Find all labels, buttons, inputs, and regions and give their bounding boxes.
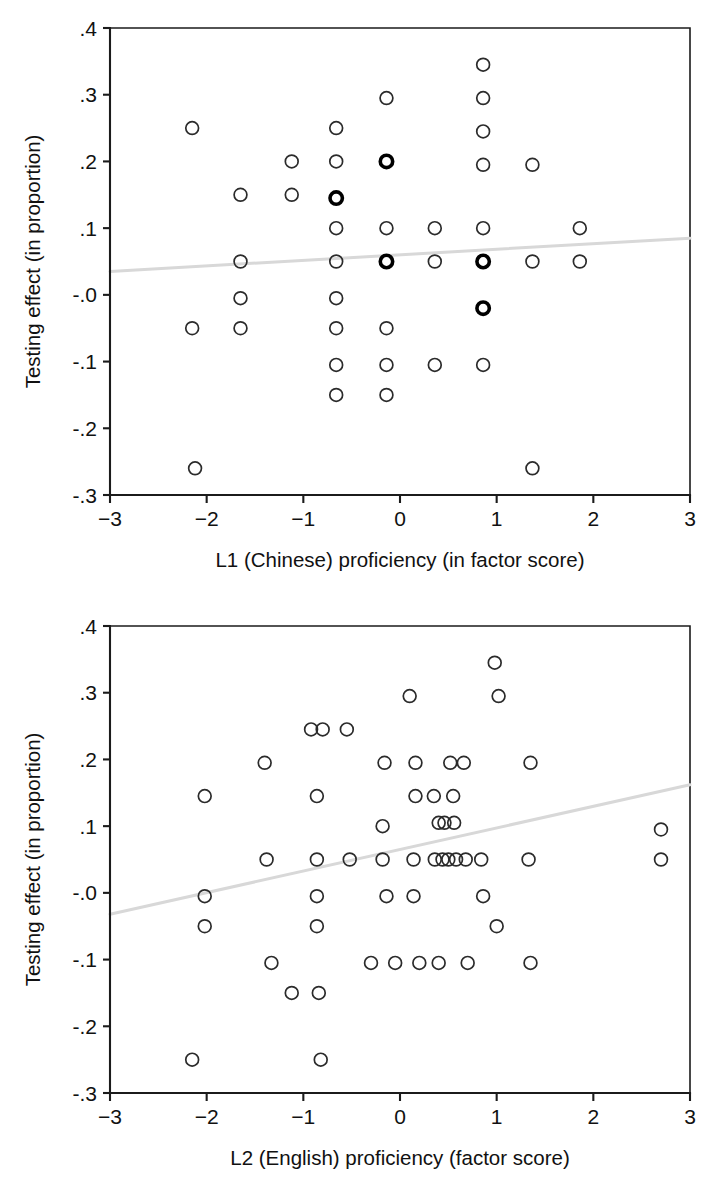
scatter-plot-l1: .4.3.2.1-.0-.1-.2-.3−3−2−10123L1 (Chines… bbox=[0, 0, 720, 598]
x-axis-tick-label: 2 bbox=[587, 507, 599, 530]
x-axis-tick-label: 2 bbox=[587, 1105, 599, 1128]
data-point-marker bbox=[409, 756, 422, 769]
data-point-marker bbox=[524, 756, 537, 769]
data-point-marker bbox=[378, 756, 391, 769]
data-point-marker bbox=[475, 853, 488, 866]
data-point-marker bbox=[330, 192, 342, 204]
data-point-marker bbox=[403, 690, 416, 703]
data-point-marker bbox=[488, 656, 501, 669]
data-point-marker bbox=[428, 222, 441, 235]
data-point-marker bbox=[380, 222, 393, 235]
data-point-marker bbox=[526, 158, 539, 171]
data-point-marker bbox=[330, 292, 343, 305]
x-axis-tick-label: −1 bbox=[291, 507, 315, 530]
x-axis-tick-label: 1 bbox=[491, 507, 503, 530]
plot-frame bbox=[110, 28, 690, 495]
data-point-marker bbox=[265, 957, 278, 970]
data-point-marker bbox=[310, 920, 323, 933]
data-points-group bbox=[186, 656, 668, 1066]
data-point-marker bbox=[186, 322, 199, 335]
data-point-marker bbox=[198, 790, 211, 803]
x-axis-tick-label: 3 bbox=[684, 1105, 696, 1128]
data-point-marker bbox=[477, 359, 490, 372]
x-axis-tick-label: −1 bbox=[291, 1105, 315, 1128]
data-point-marker bbox=[380, 255, 392, 267]
data-point-marker bbox=[427, 790, 440, 803]
data-point-marker bbox=[447, 790, 460, 803]
data-point-marker bbox=[234, 322, 247, 335]
y-axis-tick-label: .2 bbox=[79, 748, 97, 771]
data-point-marker bbox=[444, 756, 457, 769]
data-point-marker bbox=[655, 853, 668, 866]
y-axis-tick-label: -.0 bbox=[72, 881, 97, 904]
data-point-marker bbox=[477, 890, 490, 903]
data-point-marker bbox=[189, 462, 202, 475]
x-axis-tick-label: 3 bbox=[684, 507, 696, 530]
x-axis-title: L2 (English) proficiency (factor score) bbox=[230, 1146, 570, 1169]
data-point-marker bbox=[365, 957, 378, 970]
y-axis-title: Testing effect (in proportion) bbox=[21, 135, 44, 389]
y-axis-tick-label: -.2 bbox=[72, 417, 97, 440]
x-axis-tick-label: −2 bbox=[195, 507, 219, 530]
data-point-marker bbox=[234, 255, 247, 268]
data-point-marker bbox=[330, 222, 343, 235]
data-point-marker bbox=[380, 389, 393, 402]
y-axis-title: Testing effect (in proportion) bbox=[21, 733, 44, 987]
data-point-marker bbox=[380, 890, 393, 903]
data-point-marker bbox=[310, 890, 323, 903]
data-point-marker bbox=[409, 790, 422, 803]
y-axis-tick-label: -.1 bbox=[72, 948, 97, 971]
y-axis-tick-label: -.3 bbox=[72, 484, 97, 507]
data-point-marker bbox=[380, 359, 393, 372]
data-point-marker bbox=[477, 58, 490, 71]
data-point-marker bbox=[260, 853, 273, 866]
data-point-marker bbox=[310, 853, 323, 866]
data-point-marker bbox=[477, 125, 490, 138]
data-point-marker bbox=[526, 462, 539, 475]
data-point-marker bbox=[477, 92, 490, 105]
data-point-marker bbox=[461, 957, 474, 970]
y-axis-tick-label: -.0 bbox=[72, 283, 97, 306]
data-point-marker bbox=[526, 255, 539, 268]
data-point-marker bbox=[477, 158, 490, 171]
data-point-marker bbox=[490, 920, 503, 933]
data-point-marker bbox=[312, 987, 325, 1000]
data-point-marker bbox=[477, 255, 489, 267]
data-point-marker bbox=[428, 853, 441, 866]
scatter-figure-l2: .4.3.2.1-.0-.1-.2-.3−3−2−10123L2 (Englis… bbox=[0, 598, 720, 1196]
data-point-marker bbox=[330, 322, 343, 335]
y-axis-tick-label: .4 bbox=[79, 17, 97, 40]
data-point-marker bbox=[380, 155, 392, 167]
y-axis-tick-label: -.3 bbox=[72, 1082, 97, 1105]
data-points-group bbox=[186, 58, 586, 474]
x-axis-title: L1 (Chinese) proficiency (in factor scor… bbox=[215, 548, 584, 571]
data-point-marker bbox=[380, 322, 393, 335]
data-point-marker bbox=[655, 823, 668, 836]
data-point-marker bbox=[428, 359, 441, 372]
data-point-marker bbox=[330, 155, 343, 168]
data-point-marker bbox=[389, 957, 402, 970]
data-point-marker bbox=[285, 188, 298, 201]
y-axis-tick-label: .1 bbox=[79, 815, 97, 838]
y-axis-tick-label: .2 bbox=[79, 150, 97, 173]
y-axis-tick-label: .3 bbox=[79, 681, 97, 704]
x-axis-tick-label: −2 bbox=[195, 1105, 219, 1128]
data-point-marker bbox=[573, 222, 586, 235]
data-point-marker bbox=[407, 890, 420, 903]
data-point-marker bbox=[524, 957, 537, 970]
data-point-marker bbox=[186, 1053, 199, 1066]
x-axis-tick-label: 1 bbox=[491, 1105, 503, 1128]
scatter-plot-l2: .4.3.2.1-.0-.1-.2-.3−3−2−10123L2 (Englis… bbox=[0, 598, 720, 1196]
x-axis-tick-label: 0 bbox=[394, 507, 406, 530]
regression-fit-line bbox=[110, 785, 690, 914]
data-point-marker bbox=[413, 957, 426, 970]
y-axis-tick-label: .4 bbox=[79, 615, 97, 638]
y-axis-tick-label: -.1 bbox=[72, 350, 97, 373]
data-point-marker bbox=[258, 756, 271, 769]
data-point-marker bbox=[432, 957, 445, 970]
data-point-marker bbox=[492, 690, 505, 703]
y-axis-tick-label: -.2 bbox=[72, 1015, 97, 1038]
data-point-marker bbox=[376, 820, 389, 833]
data-point-marker bbox=[376, 853, 389, 866]
scatter-figure-l1: .4.3.2.1-.0-.1-.2-.3−3−2−10123L1 (Chines… bbox=[0, 0, 720, 598]
